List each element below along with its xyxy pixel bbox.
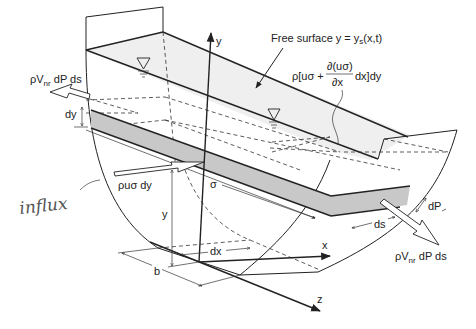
- inflow-arrow: ρuσ dy: [114, 162, 204, 191]
- svg-text:Free surface y = ys(x,t): Free surface y = ys(x,t): [271, 32, 382, 46]
- svg-text:∂(uσ): ∂(uσ): [327, 60, 353, 72]
- svg-text:σ: σ: [210, 178, 217, 190]
- channel-control-volume-diagram: y x z Free surface y = ys(x,t) ρ[uσ + ∂(…: [0, 0, 476, 329]
- svg-text:influx: influx: [18, 193, 68, 218]
- svg-text:b: b: [154, 265, 160, 277]
- svg-text:ρ[uσ +: ρ[uσ +: [292, 70, 324, 82]
- svg-text:dy: dy: [65, 108, 77, 120]
- dy-dimension: dy: [65, 107, 88, 127]
- svg-text:ρVnr dP ds: ρVnr dP ds: [30, 73, 82, 88]
- svg-text:∂x: ∂x: [332, 76, 343, 88]
- dx-dimension: dx: [168, 245, 250, 267]
- svg-text:y: y: [162, 208, 168, 220]
- lateral-outflow-arrow-left: ρVnr dP ds: [30, 73, 90, 99]
- ds-dimension: ds: [352, 217, 395, 230]
- svg-text:ds: ds: [374, 218, 386, 230]
- dp-dimension: dP: [416, 198, 446, 212]
- svg-text:dP: dP: [428, 200, 441, 212]
- handwritten-influx-note: influx: [18, 180, 100, 218]
- svg-text:ρVnr dP ds: ρVnr dP ds: [395, 250, 447, 265]
- x-axis-label: x: [322, 239, 328, 251]
- y-axis-label: y: [216, 35, 222, 47]
- z-axis-label: z: [317, 293, 323, 305]
- svg-text:dx]dy: dx]dy: [355, 70, 382, 82]
- svg-text:dx: dx: [210, 245, 222, 257]
- inflow-flux-label: ρuσ dy: [118, 179, 152, 191]
